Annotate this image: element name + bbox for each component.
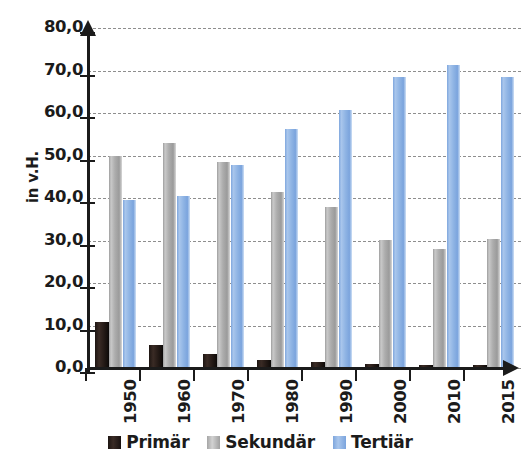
x-axis-line [87, 367, 507, 370]
bar-primar [149, 345, 163, 368]
legend-label: Primär [126, 432, 189, 452]
y-axis-tick-label: 60,0 [13, 102, 83, 121]
y-axis-tick [80, 330, 95, 332]
x-axis-arrow-icon [503, 360, 519, 376]
bar-sekundar [487, 239, 500, 368]
x-axis-tick-label: 2015 [499, 379, 518, 424]
bar-group [203, 28, 257, 368]
y-axis-tick-label: 0,0 [13, 357, 83, 376]
bar-tertiar [177, 196, 190, 368]
legend-item-sekundar[interactable]: Sekundär [207, 432, 315, 452]
bar-chart: in v.H. 0,010,020,030,040,050,060,070,08… [0, 0, 521, 466]
bar-sekundar [217, 162, 230, 368]
y-axis-tick [80, 160, 95, 162]
x-axis-tick-label: 2000 [391, 379, 410, 424]
bar-tertiar [231, 165, 244, 368]
y-axis-tick [80, 75, 95, 77]
bar-group [311, 28, 365, 368]
y-axis-tick-label: 80,0 [13, 17, 83, 36]
bar-tertiar [123, 200, 136, 368]
bar-sekundar [379, 240, 392, 368]
x-axis-tick-label: 1950 [121, 379, 140, 424]
y-axis-tick-label: 40,0 [13, 187, 83, 206]
bar-group [365, 28, 419, 368]
bar-group [419, 28, 473, 368]
legend-swatch-icon [207, 436, 220, 449]
x-axis-tick-label: 1960 [175, 379, 194, 424]
bar-tertiar [285, 129, 298, 368]
bar-group [149, 28, 203, 368]
chart-legend: PrimärSekundärTertiär [0, 432, 521, 452]
y-axis-tick-label: 70,0 [13, 60, 83, 79]
x-axis-tick-label: 1970 [229, 379, 248, 424]
y-axis-tick [80, 202, 95, 204]
y-axis-tick [80, 117, 95, 119]
x-axis-tick-label: 1980 [283, 379, 302, 424]
bar-sekundar [163, 143, 176, 368]
bar-sekundar [271, 192, 284, 368]
legend-item-tertiar[interactable]: Tertiär [333, 432, 413, 452]
legend-swatch-icon [333, 436, 346, 449]
y-axis-tick-labels: 0,010,020,030,040,050,060,070,080,0 [0, 28, 83, 368]
bar-group [473, 28, 521, 368]
bar-tertiar [393, 77, 406, 368]
bar-primar [203, 354, 217, 368]
plot-area [88, 28, 521, 368]
bar-sekundar [433, 249, 446, 368]
bar-group [95, 28, 149, 368]
y-axis-tick-label: 20,0 [13, 272, 83, 291]
legend-label: Sekundär [225, 432, 315, 452]
bar-sekundar [109, 156, 122, 368]
bar-tertiar [501, 77, 514, 368]
bar-tertiar [447, 65, 460, 368]
bar-primar [95, 322, 109, 368]
bar-tertiar [339, 110, 352, 368]
y-axis-tick [80, 372, 95, 374]
x-axis-tick-label: 1990 [337, 379, 356, 424]
y-axis-tick-label: 10,0 [13, 315, 83, 334]
y-axis-tick [80, 287, 95, 289]
y-axis-tick [80, 32, 95, 34]
legend-swatch-icon [108, 436, 121, 449]
bar-group [257, 28, 311, 368]
legend-label: Tertiär [351, 432, 413, 452]
legend-item-primar[interactable]: Primär [108, 432, 189, 452]
x-axis-tick-label: 2010 [445, 379, 464, 424]
y-axis-tick-label: 30,0 [13, 230, 83, 249]
x-axis-tick [85, 368, 87, 381]
y-axis-tick [80, 245, 95, 247]
y-axis-tick-label: 50,0 [13, 145, 83, 164]
bar-sekundar [325, 207, 338, 368]
